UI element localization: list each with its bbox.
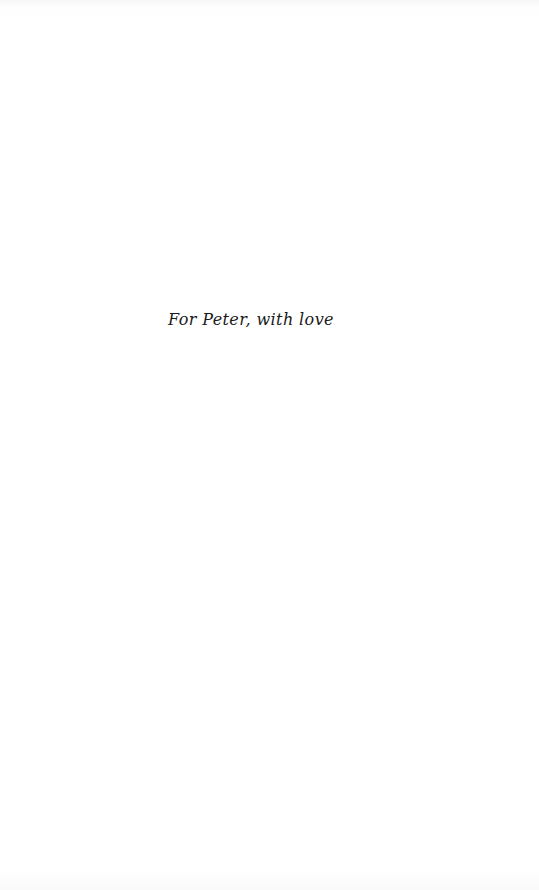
dedication-text: For Peter, with love (168, 309, 334, 331)
book-page: For Peter, with love (0, 0, 539, 890)
